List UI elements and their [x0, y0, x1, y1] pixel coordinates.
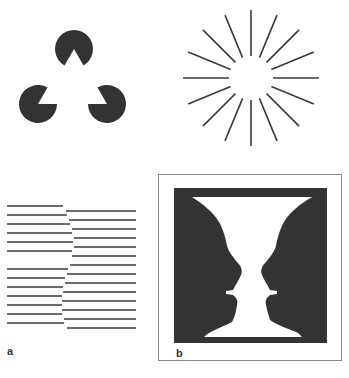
sunburst-ray [271, 52, 313, 70]
sunburst-ray [188, 52, 230, 70]
pacman-bottom-right [88, 85, 126, 123]
sunburst-ray [267, 30, 300, 63]
optical-illusions-figure: a b [0, 0, 349, 378]
sunburst-ray [267, 94, 300, 127]
sunburst-ray [203, 30, 236, 63]
kanizsa-triangle-illusion [19, 30, 126, 123]
sunburst-ray [271, 86, 313, 104]
sunburst-ray [225, 98, 243, 140]
panel-label-b: b [176, 348, 183, 359]
sunburst-ray [225, 15, 243, 57]
sunburst-ray [188, 86, 230, 104]
panel-label-a: a [7, 346, 13, 357]
pacman-top [55, 30, 93, 65]
panel-b-frame [158, 174, 342, 361]
sunburst-ray [259, 15, 277, 57]
pacman-bottom-left [19, 85, 57, 123]
sunburst-illusory-circle [183, 10, 319, 146]
offset-lines-illusory-contour [7, 206, 136, 328]
sunburst-ray [203, 94, 236, 127]
sunburst-ray [259, 98, 277, 140]
